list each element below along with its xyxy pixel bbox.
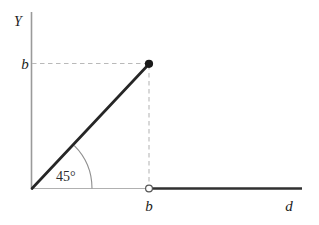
closed-endpoint-marker (145, 60, 153, 68)
open-endpoint-marker (146, 185, 153, 192)
y-tick-label-b: b (21, 56, 29, 72)
figure-container: Y b b d 45° (0, 0, 319, 225)
figure-background (0, 0, 319, 225)
x-tick-label-b: b (145, 198, 153, 214)
x-tick-label-d: d (285, 198, 293, 214)
function-graph-figure: Y b b d 45° (0, 0, 319, 225)
angle-label: 45° (56, 169, 76, 184)
